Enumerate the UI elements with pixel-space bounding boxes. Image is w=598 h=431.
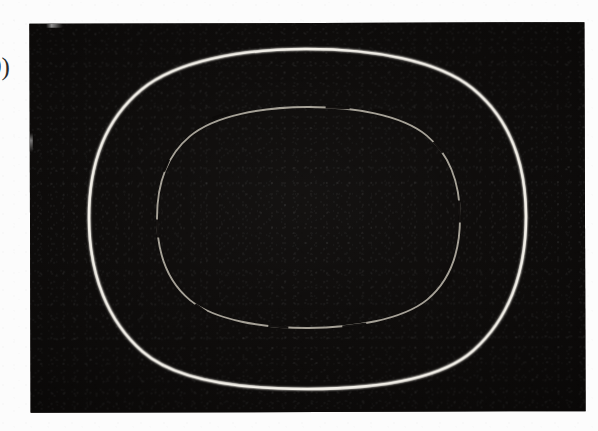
figure-label-partial: 0)	[0, 53, 11, 81]
inner-contour-path	[157, 107, 461, 329]
figure-page: 0)	[0, 0, 598, 431]
inner-contour-breaks	[157, 107, 461, 328]
contour-plot	[29, 22, 585, 413]
dark-printed-panel	[29, 22, 585, 413]
